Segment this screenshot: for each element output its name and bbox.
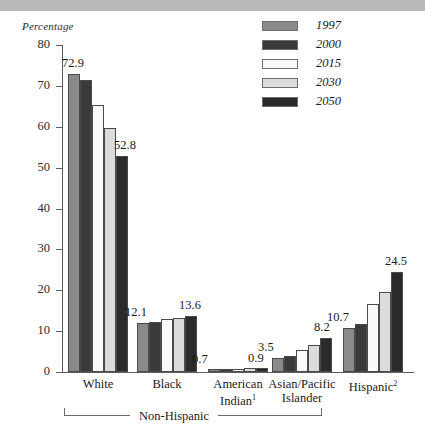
y-axis-tick — [56, 372, 63, 373]
legend-item-2050: 2050 — [262, 94, 392, 113]
legend-item-2000: 2000 — [262, 37, 392, 56]
population-projection-bar-chart: Percentage 01020304050607080 19972000201… — [0, 0, 425, 446]
bar-american-indian-1997 — [208, 369, 220, 372]
bar-value-label: 52.8 — [114, 138, 136, 153]
chart-legend: 19972000201520302050 — [262, 18, 392, 113]
bar-asian-pacific-islander-2015 — [296, 350, 308, 372]
legend-item-1997: 1997 — [262, 18, 392, 37]
y-axis-tick-label: 60 — [10, 119, 50, 134]
legend-swatch-icon — [262, 97, 298, 107]
y-axis-tick-label: 80 — [10, 37, 50, 52]
y-axis-tick-label: 10 — [10, 323, 50, 338]
bar-white-2015 — [92, 105, 104, 372]
bar-american-indian-2050 — [256, 368, 268, 372]
y-axis-tick-label: 70 — [10, 78, 50, 93]
bar-value-label: 10.7 — [327, 310, 349, 325]
legend-swatch-icon — [262, 21, 298, 31]
legend-label: 2015 — [316, 56, 341, 71]
bar-value-label: 0.7 — [192, 352, 208, 367]
bar-white-1997 — [68, 74, 80, 372]
bar-black-2000 — [149, 322, 161, 372]
bar-asian-pacific-islander-2050 — [320, 338, 332, 372]
bar-white-2050 — [116, 156, 128, 372]
legend-swatch-icon — [262, 78, 298, 88]
y-axis-tick-label: 30 — [10, 241, 50, 256]
legend-label: 2000 — [316, 37, 341, 52]
legend-label: 2030 — [316, 75, 341, 90]
legend-swatch-icon — [262, 40, 298, 50]
bar-black-2015 — [161, 319, 173, 372]
y-axis-tick-label: 40 — [10, 201, 50, 216]
legend-swatch-icon — [262, 59, 298, 69]
bar-value-label: 13.6 — [179, 298, 201, 313]
legend-item-2015: 2015 — [262, 56, 392, 75]
y-axis-title: Percentage — [22, 20, 74, 32]
bar-black-2030 — [173, 318, 185, 372]
bar-american-indian-2000 — [220, 369, 232, 372]
legend-item-2030: 2030 — [262, 75, 392, 94]
bar-value-label: 24.5 — [385, 254, 407, 269]
x-axis-group-label: Hispanic2 — [323, 377, 423, 394]
y-axis-tick-label: 20 — [10, 282, 50, 297]
y-axis-tick-label: 50 — [10, 160, 50, 175]
bar-value-label: 72.9 — [62, 56, 84, 71]
bar-asian-pacific-islander-2030 — [308, 345, 320, 372]
bar-american-indian-2015 — [232, 369, 244, 372]
bar-asian-pacific-islander-1997 — [272, 358, 284, 372]
bar-hispanic-2050 — [391, 272, 403, 372]
legend-label: 1997 — [316, 18, 341, 33]
bracket-label: Non-Hispanic — [130, 409, 218, 424]
bar-white-2000 — [80, 80, 92, 372]
bar-american-indian-2030 — [244, 368, 256, 372]
y-axis-tick-label: 0 — [10, 364, 50, 379]
bar-value-label: 12.1 — [125, 305, 147, 320]
bar-value-label: 3.5 — [258, 340, 274, 355]
legend-label: 2050 — [316, 94, 341, 109]
bar-black-1997 — [137, 323, 149, 372]
bar-white-2030 — [104, 128, 116, 372]
bar-asian-pacific-islander-2000 — [284, 356, 296, 372]
bar-hispanic-2015 — [367, 304, 379, 372]
group-label-line: Hispanic2 — [323, 377, 423, 394]
x-axis-line — [62, 372, 414, 373]
bar-hispanic-1997 — [343, 328, 355, 372]
bar-hispanic-2000 — [355, 324, 367, 372]
footnote-marker: 2 — [393, 379, 397, 388]
bar-hispanic-2030 — [379, 292, 391, 372]
